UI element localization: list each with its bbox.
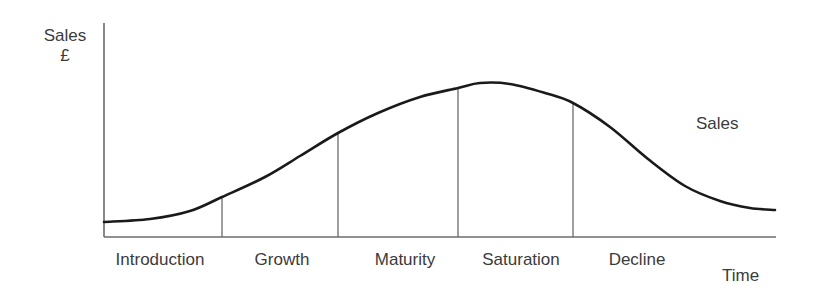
series-label-sales: Sales (696, 114, 739, 134)
x-axis-label: Time (722, 266, 759, 286)
stage-label-saturation: Saturation (482, 250, 560, 270)
stage-label-growth: Growth (255, 250, 310, 270)
y-axis-label: Sales £ (36, 26, 94, 66)
stage-label-introduction: Introduction (116, 250, 205, 270)
sales-curve (104, 83, 775, 222)
stage-label-maturity: Maturity (375, 250, 435, 270)
y-axis-unit-text: £ (36, 46, 94, 66)
product-life-cycle-chart: Sales £ Time Sales Introduction Growth M… (0, 0, 816, 304)
stage-divider-group (222, 88, 573, 237)
y-axis-label-text: Sales (44, 26, 87, 45)
stage-label-decline: Decline (609, 250, 666, 270)
